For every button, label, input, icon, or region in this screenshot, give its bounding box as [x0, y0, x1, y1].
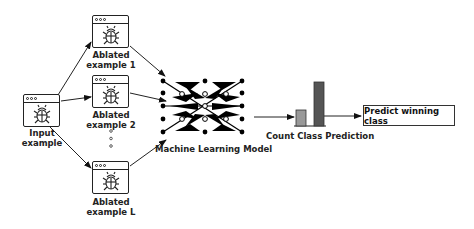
window-dot [103, 164, 106, 167]
label-line: example L [84, 207, 138, 217]
count-class-bar-chart [294, 82, 326, 126]
predict-winning-class-box: Predict winning class [363, 105, 455, 126]
window-dot [99, 78, 102, 81]
neural-network-icon [161, 79, 245, 135]
bar-class-a [296, 110, 306, 126]
window-dot [99, 164, 102, 167]
ablated-example-l-window [92, 161, 129, 194]
label-line: Ablated [84, 50, 138, 60]
bug-icon [102, 85, 120, 105]
label-line: Ablated [84, 197, 138, 207]
ablated-example-1-label: Ablated example 1 [84, 50, 138, 70]
bug-icon [102, 171, 120, 191]
window-dot [34, 97, 37, 100]
label-line: example 1 [84, 60, 138, 70]
window-dot [30, 97, 33, 100]
label-line: example [20, 138, 64, 148]
count-class-label: Count Class Prediction [266, 131, 356, 141]
input-example-label: Input example [20, 128, 64, 148]
ablated-example-2-label: Ablated example 2 [84, 110, 138, 130]
input-example-window [23, 94, 60, 127]
window-dot [95, 18, 98, 21]
window-dot [26, 97, 29, 100]
window-titlebar [24, 95, 59, 103]
window-titlebar [93, 76, 128, 84]
ablated-example-1-window [92, 15, 129, 48]
label-line: Input [20, 128, 64, 138]
window-dot [95, 164, 98, 167]
bug-icon [102, 25, 120, 45]
window-dot [103, 18, 106, 21]
label-line: Ablated [84, 110, 138, 120]
window-titlebar [93, 162, 128, 170]
window-dot [103, 78, 106, 81]
ellipsis-icon [108, 128, 114, 150]
window-dot [95, 78, 98, 81]
arrow-ablated-2-to-model [130, 93, 166, 101]
bar-class-b [314, 82, 324, 126]
window-titlebar [93, 16, 128, 24]
ablated-example-l-label: Ablated example L [84, 197, 138, 217]
window-dot [99, 18, 102, 21]
arrow-input-to-ablated-2 [61, 97, 91, 101]
ablated-example-2-window [92, 75, 129, 108]
bug-icon [33, 104, 51, 124]
model-label: Machine Learning Model [155, 144, 259, 154]
